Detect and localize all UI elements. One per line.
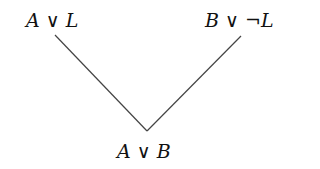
var-b: B: [205, 9, 219, 31]
var-l: L: [261, 9, 274, 31]
var-a: A: [117, 140, 131, 162]
var-a: A: [26, 9, 40, 31]
or-not-symbol: ∨ ¬: [219, 9, 261, 31]
conclusion: A ∨ B: [117, 142, 171, 161]
edge-right: [147, 36, 241, 131]
premise-right: B ∨ ¬L: [205, 11, 274, 30]
var-l: L: [66, 9, 79, 31]
edge-left: [55, 35, 147, 131]
premise-left: A ∨ L: [26, 11, 78, 30]
var-b: B: [157, 140, 171, 162]
or-symbol: ∨: [40, 9, 66, 31]
or-symbol: ∨: [131, 140, 157, 162]
